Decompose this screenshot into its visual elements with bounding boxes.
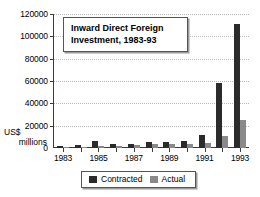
x-axis-tick-label: 1989 (160, 153, 178, 165)
x-axis-tick-label (143, 153, 160, 165)
bar-actual (222, 136, 228, 148)
legend-label-actual: Actual (162, 174, 186, 184)
x-axis-tick-label (107, 153, 124, 165)
x-axis-tick-label: 1991 (196, 153, 214, 165)
x-axis-labels: 1983 1985 1987 1989 1991 1993 (54, 153, 249, 165)
bar-group (214, 14, 232, 148)
x-tick (72, 148, 90, 152)
chart-legend: Contracted Actual (81, 171, 196, 188)
x-tick (231, 148, 249, 152)
y-axis-title: US$ millions (4, 128, 50, 147)
x-tick (160, 148, 178, 152)
x-tick (196, 148, 214, 152)
chart-title: Inward Direct Foreign Investment, 1983-9… (63, 17, 188, 52)
legend-swatch-actual (150, 176, 158, 183)
x-axis-tick-label: 1983 (54, 153, 72, 165)
x-axis-tick-label (72, 153, 89, 165)
x-axis-tick-label (214, 153, 231, 165)
y-axis-tick-label: 60000 (0, 77, 48, 86)
x-tick (214, 148, 232, 152)
x-tick (125, 148, 143, 152)
x-tick (89, 148, 107, 152)
legend-label-contracted: Contracted (101, 174, 143, 184)
bar-group (231, 14, 249, 148)
x-axis-ticks (54, 148, 249, 152)
bar-actual (240, 120, 246, 148)
legend-swatch-contracted (89, 176, 97, 183)
y-axis-title-line2: millions (4, 138, 50, 148)
chart-container: 120000 100000 80000 60000 40000 20000 0 … (0, 0, 260, 197)
y-axis-tick-label: 120000 (0, 10, 48, 19)
y-axis-tick-label: 40000 (0, 99, 48, 108)
y-axis-tick-label: 80000 (0, 55, 48, 64)
bar-group (196, 14, 214, 148)
x-tick (54, 148, 72, 152)
y-axis-tick-label: 100000 (0, 32, 48, 41)
chart-title-line1: Inward Direct Foreign (71, 22, 181, 34)
x-tick (178, 148, 196, 152)
chart-title-line2: Investment, 1983-93 (71, 34, 181, 46)
x-axis-tick-label (178, 153, 195, 165)
x-tick (143, 148, 161, 152)
x-axis-tick-label: 1987 (125, 153, 143, 165)
x-axis-tick-label: 1985 (89, 153, 107, 165)
x-tick (107, 148, 125, 152)
x-axis-tick-label: 1993 (231, 153, 249, 165)
